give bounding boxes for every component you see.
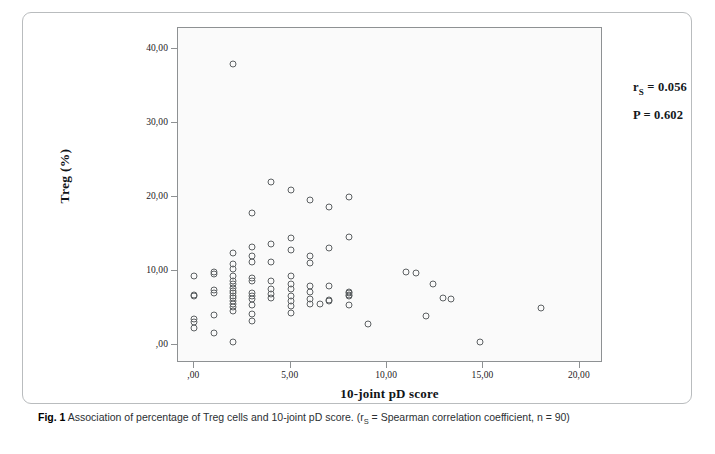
scatter-point (326, 204, 333, 211)
scatter-point (210, 311, 217, 318)
scatter-point (229, 308, 236, 315)
scatter-point (210, 290, 217, 297)
scatter-point (268, 278, 275, 285)
figure-page: Treg (%) ,0010,0020,0030,0040,00 rS = 0.… (0, 0, 715, 454)
x-tick-label: 20,00 (554, 370, 604, 380)
scatter-point (249, 210, 256, 217)
x-tick-mark (482, 362, 483, 368)
scatter-point (191, 293, 198, 300)
spearman-annotation: rS = 0.056 (633, 80, 687, 97)
scatter-point (229, 339, 236, 346)
scatter-point (345, 302, 352, 309)
x-tick-mark (290, 362, 291, 368)
scatter-point (287, 285, 294, 292)
scatter-point (268, 241, 275, 248)
caption-body: Association of percentage of Treg cells … (65, 411, 363, 423)
scatter-point (210, 330, 217, 337)
y-tick-label: 10,00 (122, 265, 168, 275)
scatter-point (249, 259, 256, 266)
scatter-point (268, 179, 275, 186)
scatter-point (307, 300, 314, 307)
scatter-point (403, 268, 410, 275)
x-tick-label: 10,00 (361, 370, 411, 380)
scatter-point (316, 301, 323, 308)
scatter-point (345, 234, 352, 241)
scatter-point (413, 269, 420, 276)
scatter-point (249, 311, 256, 318)
scatter-point (345, 293, 352, 300)
scatter-point (287, 186, 294, 193)
scatter-point (191, 325, 198, 332)
x-tick-mark (579, 362, 580, 368)
scatter-point (191, 273, 198, 280)
scatter-point (249, 318, 256, 325)
y-tick-label: 40,00 (122, 43, 168, 53)
scatter-point (249, 302, 256, 309)
scatter-point (476, 339, 483, 346)
scatter-point (229, 60, 236, 67)
scatter-point (447, 295, 454, 302)
scatter-point (326, 298, 333, 305)
scatter-point (210, 271, 217, 278)
scatter-point (326, 282, 333, 289)
scatter-points-layer (178, 28, 601, 361)
scatter-point (440, 294, 447, 301)
scatter-point (364, 320, 371, 327)
scatter-point (249, 278, 256, 285)
scatter-point (229, 250, 236, 257)
scatter-point (326, 245, 333, 252)
scatter-point (249, 244, 256, 251)
scatter-point (268, 294, 275, 301)
figure-caption: Fig. 1 Association of percentage of Treg… (38, 410, 688, 427)
x-tick-label: 5,00 (265, 370, 315, 380)
x-tick-mark (386, 362, 387, 368)
scatter-point (345, 193, 352, 200)
scatter-point (287, 235, 294, 242)
scatter-point (422, 312, 429, 319)
scatter-point (307, 196, 314, 203)
x-tick-label: 15,00 (457, 370, 507, 380)
y-tick-label: 20,00 (122, 191, 168, 201)
x-tick-mark (193, 362, 194, 368)
scatter-point (268, 259, 275, 266)
y-tick-label: ,00 (122, 339, 168, 349)
y-tick-label: 30,00 (122, 117, 168, 127)
x-tick-label: ,00 (168, 370, 218, 380)
scatter-point (538, 305, 545, 312)
scatter-point (287, 273, 294, 280)
x-axis-title: 10-joint pD score (177, 386, 602, 402)
plot-area[interactable]: rS = 0.056 P = 0.602 (177, 27, 602, 362)
pvalue-annotation: P = 0.602 (633, 108, 683, 123)
scatter-point (307, 259, 314, 266)
scatter-point (287, 246, 294, 253)
scatter-point (287, 309, 294, 316)
rs-value: = 0.056 (644, 80, 687, 94)
scatter-point (430, 280, 437, 287)
caption-tail: = Spearman correlation coefficient, n = … (369, 411, 570, 423)
caption-figure-number: Fig. 1 (38, 411, 65, 423)
y-axis-title: Treg (%) (57, 106, 73, 246)
